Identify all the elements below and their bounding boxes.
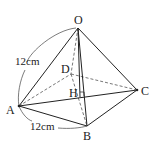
point-A xyxy=(18,105,21,108)
edge-OC xyxy=(78,28,137,90)
edge-DC xyxy=(71,74,137,90)
label-D: D xyxy=(61,62,70,76)
label-C: C xyxy=(141,84,149,98)
label-H: H xyxy=(69,86,78,100)
right-angle-mark xyxy=(80,92,84,96)
diagonal-AC xyxy=(19,90,137,106)
edge-AD xyxy=(19,74,71,106)
pyramid-diagram: O A B C D H 12cm 12cm xyxy=(0,0,159,149)
point-C xyxy=(136,89,139,92)
edge-OD xyxy=(71,28,78,74)
label-A: A xyxy=(6,103,15,117)
label-OA-length: 12cm xyxy=(15,55,40,67)
label-O: O xyxy=(74,13,83,27)
visible-edges xyxy=(19,28,137,126)
label-AB-length: 12cm xyxy=(30,120,55,132)
label-B: B xyxy=(83,129,91,143)
